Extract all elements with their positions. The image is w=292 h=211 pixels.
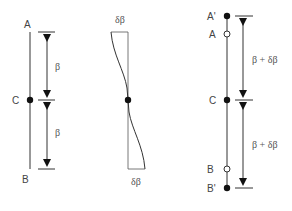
label-a: A [209, 29, 216, 40]
label-b-prime: B' [207, 183, 216, 194]
left-panel: A C B β β [12, 19, 60, 185]
point-b-circle [224, 166, 230, 172]
label-delta-beta-bottom: δβ [131, 176, 141, 187]
diagram-canvas: A C B β β δβ δβ A' A C B B' [0, 0, 292, 211]
label-b: B [207, 164, 214, 175]
label-b: B [22, 174, 29, 185]
label-a: A [24, 19, 31, 30]
dimension-label-lower: β [55, 127, 60, 138]
dimension-label-lower: β + δβ [252, 139, 278, 150]
center-dot [125, 97, 131, 103]
point-c-dot [224, 97, 230, 103]
label-delta-beta-top: δβ [115, 14, 125, 25]
point-b-prime-dot [224, 185, 230, 191]
label-a-prime: A' [207, 11, 216, 22]
label-c: C [12, 95, 19, 106]
point-a-prime-dot [224, 13, 230, 19]
middle-panel: δβ δβ [111, 14, 145, 187]
label-c: C [209, 95, 216, 106]
dimension-label-upper: β [55, 61, 60, 72]
dimension-label-upper: β + δβ [252, 54, 278, 65]
right-panel: A' A C B B' β + δβ β + δβ [207, 11, 278, 194]
point-a-circle [224, 31, 230, 37]
point-c-dot [27, 97, 33, 103]
